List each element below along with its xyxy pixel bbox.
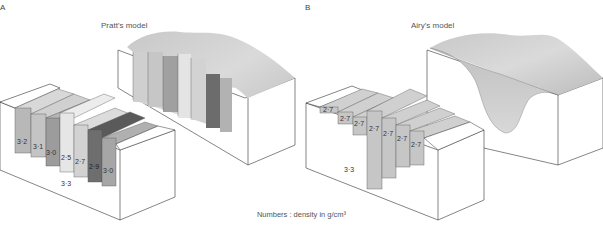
- pratt-density-label: 3·0: [103, 167, 113, 174]
- pratt-density-label: 3·1: [33, 143, 43, 150]
- pratt-density-label: 3·2: [17, 138, 27, 145]
- airy-density-label: 2·7: [340, 115, 350, 122]
- airy-mantle-density: 3·3: [344, 166, 354, 173]
- airy-density-label: 2·7: [411, 141, 421, 148]
- airy-density-label: 2·7: [354, 120, 364, 127]
- airy-density-label: 2·7: [323, 106, 333, 113]
- isostasy-diagram: 3·2 3·1 3·0 2·5 2·7 2·9 3·0 3·3 2: [0, 0, 603, 227]
- density-caption: Numbers : density in g/cm³: [0, 210, 603, 219]
- pratt-mantle-density: 3·3: [61, 180, 71, 187]
- airy-density-label: 2·7: [397, 135, 407, 142]
- airy-density-label: 2·7: [369, 125, 379, 132]
- pratt-density-label: 2·7: [75, 158, 85, 165]
- pratt-density-label: 2·9: [89, 163, 99, 170]
- pratt-density-label: 2·5: [61, 154, 71, 161]
- airy-density-label: 2·7: [383, 130, 393, 137]
- pratt-density-label: 3·0: [46, 149, 56, 156]
